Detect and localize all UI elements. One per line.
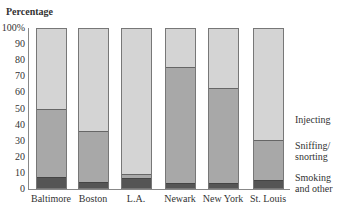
segment	[79, 182, 108, 188]
segment	[37, 109, 66, 177]
x-label: New York	[198, 193, 248, 204]
segment	[122, 178, 151, 188]
bar-newark	[165, 28, 196, 189]
segment	[79, 131, 108, 182]
y-tick: 80	[0, 55, 25, 65]
legend-smoking-2: and other	[295, 183, 333, 194]
y-tick: 0	[0, 184, 25, 194]
bar-boston	[78, 28, 109, 189]
y-tick: 20	[0, 152, 25, 162]
y-tick: 30	[0, 136, 25, 146]
bar-new-york	[208, 28, 239, 189]
segment	[166, 29, 195, 67]
bar-l-a-	[121, 28, 152, 189]
segment	[209, 29, 238, 88]
segment	[209, 183, 238, 188]
y-tick: 70	[0, 71, 25, 81]
y-tick: 10	[0, 168, 25, 178]
segment	[254, 140, 283, 180]
chart-title: Percentage	[6, 6, 53, 17]
x-axis	[28, 189, 290, 190]
segment	[254, 180, 283, 188]
y-tick: 90	[0, 39, 25, 49]
legend-sniffing-1: Sniffing/	[295, 140, 330, 151]
legend-smoking-1: Smoking	[295, 172, 331, 183]
bar-st-louis	[253, 28, 284, 189]
segment	[122, 29, 151, 174]
y-tick: 50	[0, 104, 25, 114]
x-label: L.A.	[111, 193, 161, 204]
y-tick: 100%	[0, 23, 25, 33]
y-tick: 60	[0, 87, 25, 97]
x-label: St. Louis	[243, 193, 293, 204]
segment	[254, 29, 283, 140]
bar-baltimore	[36, 28, 67, 189]
legend-injecting: Injecting	[295, 114, 331, 125]
y-axis	[28, 28, 29, 189]
segment	[79, 29, 108, 131]
segment	[37, 29, 66, 109]
segment	[37, 177, 66, 188]
segment	[209, 88, 238, 183]
segment	[166, 183, 195, 188]
y-tick: 40	[0, 120, 25, 130]
legend-sniffing-2: snorting	[295, 151, 328, 162]
segment	[166, 67, 195, 183]
